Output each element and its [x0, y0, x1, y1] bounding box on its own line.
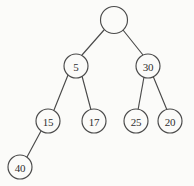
tree-node-circle: [101, 7, 128, 34]
tree-node: 30: [136, 54, 160, 78]
tree-node: 40: [8, 155, 32, 179]
tree-node-label: 15: [43, 116, 54, 128]
tree-node: 17: [82, 109, 106, 133]
tree-node-label: 40: [15, 162, 26, 174]
tree-node: [101, 7, 128, 34]
tree-node: 5: [64, 54, 88, 78]
tree-edge-layer: [27, 30, 167, 157]
tree-edge: [27, 131, 41, 157]
tree-edge: [153, 76, 167, 110]
tree-node-label: 30: [143, 61, 154, 73]
tree-node-label: 17: [89, 116, 100, 128]
tree-node-label: 20: [165, 116, 176, 128]
tree-node: 25: [124, 109, 148, 133]
tree-edge: [82, 76, 91, 110]
tree-node: 15: [36, 109, 60, 133]
binary-tree-figure: 5301517252040: [0, 0, 194, 186]
tree-node-label: 5: [73, 61, 79, 73]
tree-edge: [138, 77, 144, 110]
tree-node: 20: [158, 109, 182, 133]
tree-edge: [82, 30, 104, 55]
tree-node-label: 25: [131, 116, 142, 128]
binary-tree-canvas: 5301517252040: [0, 0, 194, 186]
tree-edge: [123, 30, 143, 55]
tree-edge: [54, 75, 68, 110]
tree-node-layer: 5301517252040: [8, 7, 182, 180]
